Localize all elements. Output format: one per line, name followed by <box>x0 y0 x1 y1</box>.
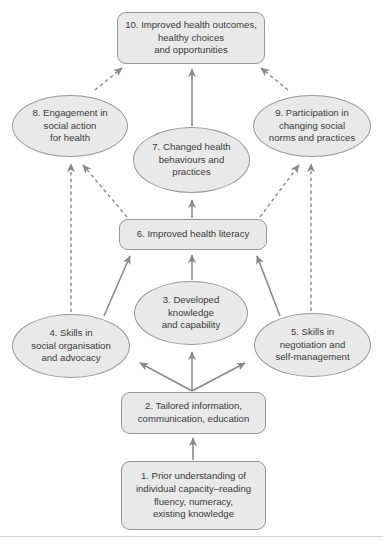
node-4-label: 4. Skills in social organisation and adv… <box>31 327 110 366</box>
node-1-label: 1. Prior understanding of individual cap… <box>136 470 251 522</box>
node-7-label: 7. Changed health behaviours and practic… <box>152 141 230 180</box>
node-5-skills-negotiation: 5. Skills in negotiation and self-manage… <box>254 313 371 377</box>
node-6-label: 6. Improved health literacy <box>137 228 250 241</box>
node-3-label: 3. Developed knowledge and capability <box>162 294 221 333</box>
edge-9-to-10 <box>261 68 288 90</box>
node-2-label: 2. Tailored information, communication, … <box>138 400 249 426</box>
node-8-engagement-social-action: 8. Engagement in social action for healt… <box>12 95 128 157</box>
edge-2-to-5 <box>192 363 245 391</box>
node-5-label: 5. Skills in negotiation and self-manage… <box>275 326 349 365</box>
diagram-canvas: 10. Improved health outcomes, healthy ch… <box>0 0 383 543</box>
node-9-participation-social-norms: 9. Participation in changing social norm… <box>253 95 371 157</box>
edge-6-to-8 <box>83 165 127 217</box>
node-8-label: 8. Engagement in social action for healt… <box>32 107 107 146</box>
edge-2-to-4 <box>140 363 192 391</box>
edge-5-to-6 <box>257 256 280 316</box>
node-2-tailored-information: 2. Tailored information, communication, … <box>121 392 266 434</box>
node-10-label: 10. Improved health outcomes, healthy ch… <box>125 19 257 58</box>
page-bottom-rule <box>0 536 383 537</box>
edge-4-to-6 <box>104 256 130 316</box>
node-10-improved-health-outcomes: 10. Improved health outcomes, healthy ch… <box>117 12 265 64</box>
node-4-skills-social-organisation: 4. Skills in social organisation and adv… <box>12 314 130 378</box>
node-9-label: 9. Participation in changing social norm… <box>269 107 355 146</box>
edge-6-to-9 <box>260 165 299 217</box>
node-6-improved-health-literacy: 6. Improved health literacy <box>119 219 267 250</box>
edge-8-to-10 <box>95 68 122 90</box>
node-3-developed-knowledge: 3. Developed knowledge and capability <box>134 281 248 345</box>
node-7-changed-health-behaviours: 7. Changed health behaviours and practic… <box>133 127 250 193</box>
node-1-prior-understanding: 1. Prior understanding of individual cap… <box>121 461 266 530</box>
